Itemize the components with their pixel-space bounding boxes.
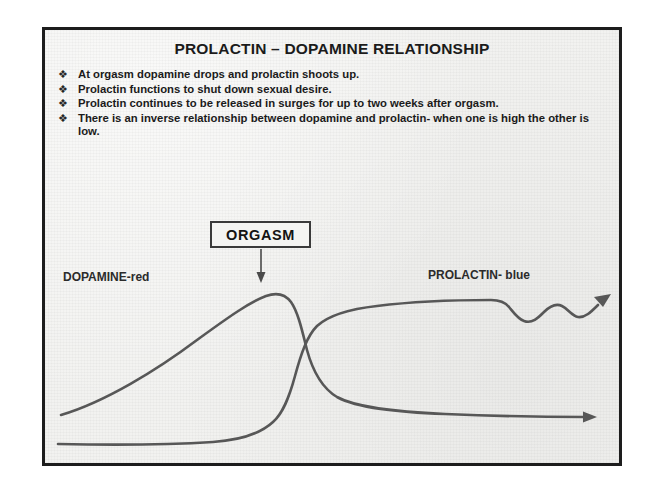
- prolactin-curve: [58, 294, 611, 445]
- dopamine-curve: [61, 294, 597, 423]
- relationship-curves-plot: [45, 30, 619, 463]
- screenshot-canvas: PROLACTIN – DOPAMINE RELATIONSHIP ❖ At o…: [0, 0, 657, 493]
- orgasm-pointer-arrow-icon: [257, 249, 266, 283]
- slide-frame: PROLACTIN – DOPAMINE RELATIONSHIP ❖ At o…: [42, 27, 622, 466]
